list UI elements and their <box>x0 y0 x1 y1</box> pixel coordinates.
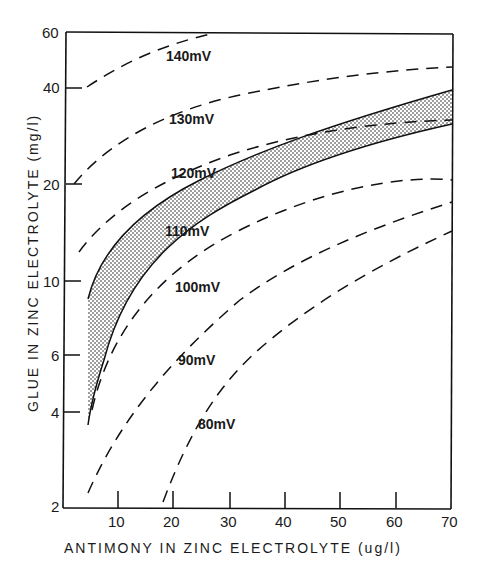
label-90mV: 90mV <box>178 352 216 368</box>
label-120mV: 120mV <box>171 165 217 181</box>
y-tick-10: 10 <box>43 273 60 290</box>
y-tick-6: 6 <box>51 347 59 364</box>
x-tick-10: 10 <box>108 513 125 530</box>
label-110mV: 110mV <box>165 223 210 239</box>
chart: 140mV 130mV 120mV 110mV 100mV 90mV 80mV … <box>0 0 477 579</box>
x-ticks <box>118 491 396 508</box>
x-tick-60: 60 <box>386 513 403 530</box>
y-axis-title: GLUE IN ZINC ELECTROLYTE (mg/l) <box>25 114 41 412</box>
label-140mV: 140mV <box>166 48 212 64</box>
y-tick-20: 20 <box>43 176 60 193</box>
label-100mV: 100mV <box>175 279 221 295</box>
y-ticks <box>64 88 82 412</box>
x-axis-title: ANTIMONY IN ZINC ELECTROLYTE (ug/l) <box>64 540 402 556</box>
x-tick-50: 50 <box>330 513 347 530</box>
label-130mV: 130mV <box>169 111 215 127</box>
y-tick-40: 40 <box>43 79 60 96</box>
x-tick-30: 30 <box>220 513 237 530</box>
y-tick-4: 4 <box>51 404 59 421</box>
x-tick-70: 70 <box>441 513 458 530</box>
label-80mV: 80mV <box>198 416 236 432</box>
y-tick-2: 2 <box>51 498 59 515</box>
x-tick-40: 40 <box>275 513 292 530</box>
y-tick-60: 60 <box>42 24 59 41</box>
x-tick-20: 20 <box>163 513 180 530</box>
